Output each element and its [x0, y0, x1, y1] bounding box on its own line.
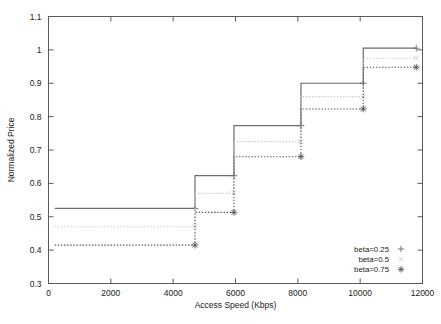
plot-frame: [49, 17, 423, 284]
series-line-beta-0-25: [55, 48, 417, 208]
y-tick-label-6: 0.9: [30, 78, 42, 88]
x-tick-label-1: 2000: [101, 288, 120, 298]
marker-star-2-1: [231, 209, 238, 216]
x-tick-label-3: 6000: [226, 288, 245, 298]
marker-plus-0-4: [413, 45, 420, 52]
x-tick-label-2: 4000: [164, 288, 183, 298]
x-tick-label-0: 0: [46, 288, 51, 298]
y-tick-label-0: 0.3: [30, 279, 42, 289]
y-tick-label-1: 0.4: [30, 245, 42, 255]
y-tick-label-5: 0.8: [30, 112, 42, 122]
x-tick-label-5: 10000: [348, 288, 372, 298]
legend-label-beta-0-5: beta=0.5: [358, 255, 389, 264]
legend-marker-plus: [398, 246, 404, 252]
x-axis-label: Access Speed (Kbps): [195, 300, 277, 310]
x-tick-label-4: 8000: [288, 288, 307, 298]
series-line-beta-0-75: [55, 67, 417, 245]
marker-star-2-3: [360, 106, 367, 113]
y-tick-label-2: 0.5: [30, 212, 42, 222]
x-tick-label-6: 12000: [411, 288, 435, 298]
legend-label-beta-0-75: beta=0.75: [354, 265, 390, 274]
legend-marker-star: [398, 266, 404, 272]
y-tick-label-4: 0.7: [30, 145, 42, 155]
y-tick-label-3: 0.6: [30, 178, 42, 188]
y-tick-label-8: 1.1: [30, 12, 42, 22]
chart-canvas: 0.30.40.50.60.70.80.911.1020004000600080…: [0, 0, 441, 324]
normalized-price-step-chart: 0.30.40.50.60.70.80.911.1020004000600080…: [0, 0, 441, 324]
marker-star-2-2: [298, 153, 305, 160]
y-tick-label-7: 1: [37, 45, 42, 55]
legend-marker-cross: [399, 257, 404, 262]
legend-label-beta-0-25: beta=0.25: [354, 245, 390, 254]
marker-star-2-0: [192, 242, 199, 249]
marker-star-2-4: [413, 64, 420, 71]
y-axis-label: Normalized Price: [6, 117, 16, 182]
